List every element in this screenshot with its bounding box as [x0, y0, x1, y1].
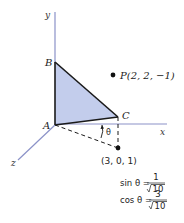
- theta-label: θ: [106, 128, 111, 137]
- cos-formula-lhs: cos θ =: [120, 195, 152, 205]
- triangle-abc: [55, 62, 118, 125]
- diagram-canvas: y x z A B C P(2, 2, −1) θ (3, 0, 1) sin …: [0, 0, 184, 223]
- y-axis-label: y: [44, 10, 51, 20]
- sin-formula-lhs: sin θ =: [120, 178, 150, 188]
- x-axis-label: x: [160, 127, 165, 137]
- cos-denominator: 10: [155, 201, 166, 211]
- cos-numerator: 3: [155, 189, 160, 199]
- point-b-label: B: [44, 57, 52, 68]
- point-a-label: A: [42, 120, 50, 131]
- theta-arrow-icon: [101, 125, 105, 129]
- point-c-label: C: [122, 110, 130, 121]
- z-axis-label: z: [10, 158, 16, 168]
- sin-numerator: 1: [153, 172, 158, 182]
- point-p-dot: [111, 73, 116, 78]
- point-p-label: P(2, 2, −1): [119, 70, 175, 81]
- projection-point: [116, 146, 121, 151]
- projection-label: (3, 0, 1): [101, 156, 137, 166]
